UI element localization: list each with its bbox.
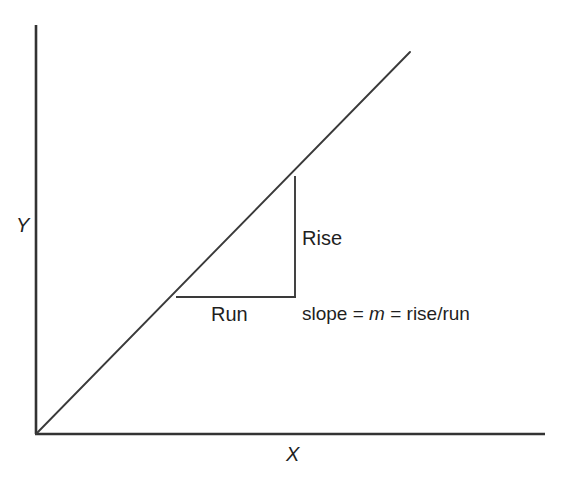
- slope-formula-suffix: = rise/run: [385, 303, 470, 324]
- slope-diagram: Y X Rise Run slope = m = rise/run: [0, 0, 566, 478]
- plotted-line: [36, 52, 410, 434]
- rise-label: Rise: [302, 228, 342, 248]
- slope-formula-prefix: slope =: [302, 303, 369, 324]
- slope-formula-variable: m: [369, 303, 385, 324]
- x-axis-label: X: [286, 444, 299, 464]
- slope-diagram-canvas: [0, 0, 566, 478]
- y-axis-label: Y: [16, 215, 29, 235]
- slope-formula-label: slope = m = rise/run: [302, 304, 470, 323]
- run-label: Run: [211, 304, 248, 324]
